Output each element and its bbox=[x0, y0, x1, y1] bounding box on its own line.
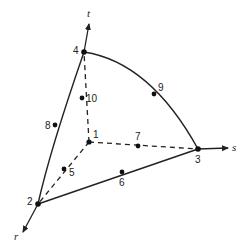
hidden-edges bbox=[38, 52, 198, 204]
r-axis bbox=[23, 204, 38, 232]
node-3-dot bbox=[195, 146, 201, 152]
node-4-dot bbox=[81, 49, 87, 55]
node-6-dot bbox=[120, 170, 125, 175]
node-points bbox=[35, 49, 201, 207]
node-1-label: 1 bbox=[93, 129, 99, 140]
node-2-label: 2 bbox=[27, 196, 33, 207]
node-9-label: 9 bbox=[158, 82, 164, 93]
s-axis bbox=[198, 148, 228, 149]
node-5-label: 5 bbox=[69, 167, 75, 178]
node-4-label: 4 bbox=[73, 45, 79, 56]
node-2-dot bbox=[35, 201, 41, 207]
node-8-dot bbox=[53, 123, 58, 128]
axes bbox=[23, 24, 228, 232]
diagram-svg: 1 2 3 4 5 6 7 8 9 10 t s r bbox=[0, 0, 250, 250]
s-axis-label: s bbox=[232, 141, 236, 153]
tetrahedral-element-diagram: 1 2 3 4 5 6 7 8 9 10 t s r bbox=[0, 0, 250, 250]
node-1-dot bbox=[86, 139, 91, 144]
node-7-dot bbox=[136, 144, 141, 149]
node-10-dot bbox=[80, 96, 85, 101]
visible-edges bbox=[38, 52, 198, 204]
edge-1-3 bbox=[89, 142, 198, 149]
r-axis-label: r bbox=[14, 230, 19, 242]
t-axis bbox=[84, 24, 89, 52]
t-axis-label: t bbox=[87, 7, 91, 19]
node-9-dot bbox=[152, 92, 157, 97]
node-6-label: 6 bbox=[119, 177, 125, 188]
edge-4-3 bbox=[84, 52, 198, 149]
edge-2-3 bbox=[38, 149, 198, 204]
node-8-label: 8 bbox=[45, 120, 51, 131]
node-5-dot bbox=[62, 167, 67, 172]
node-7-label: 7 bbox=[135, 131, 141, 142]
node-10-label: 10 bbox=[86, 93, 98, 104]
node-3-label: 3 bbox=[195, 154, 201, 165]
